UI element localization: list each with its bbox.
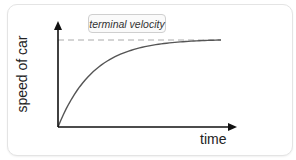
terminal-velocity-label: terminal velocity	[88, 14, 166, 33]
x-axis-label: time	[200, 131, 226, 147]
x-axis-arrowhead-icon	[228, 123, 237, 131]
terminal-velocity-text: terminal velocity	[89, 18, 164, 30]
y-axis-label: speed of car	[14, 35, 30, 112]
y-axis-arrowhead-icon	[54, 21, 62, 30]
speed-curve	[58, 40, 221, 127]
